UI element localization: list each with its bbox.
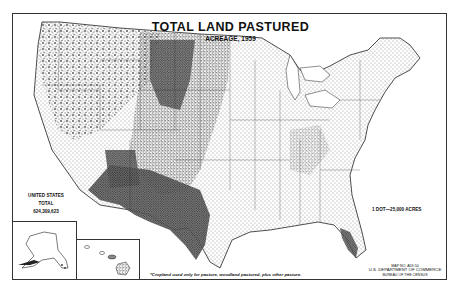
us-total-sublabel: TOTAL	[18, 200, 74, 208]
department-name: U.S. DEPARTMENT OF COMMERCE	[364, 268, 446, 272]
alaska-inset-frame	[12, 221, 77, 280]
map-title: TOTAL LAND PASTURED	[0, 20, 461, 34]
conterminous-us	[34, 22, 420, 268]
map-subtitle: ACREAGE, 1959	[0, 35, 461, 42]
bureau-name: BUREAU OF THE CENSUS	[364, 273, 446, 277]
us-total-summary: UNITED STATES TOTAL 624,309,623	[18, 192, 74, 216]
dot-legend: 1 DOT—25,000 ACRES	[372, 207, 421, 212]
hawaii-inset-frame	[76, 239, 140, 280]
us-total-value: 624,309,623	[18, 208, 74, 216]
credit-block: MAP NO. A59-50 U.S. DEPARTMENT OF COMMER…	[364, 264, 446, 277]
footnote: *Cropland used only for pasture, woodlan…	[150, 272, 302, 277]
us-total-label: UNITED STATES	[18, 192, 74, 200]
